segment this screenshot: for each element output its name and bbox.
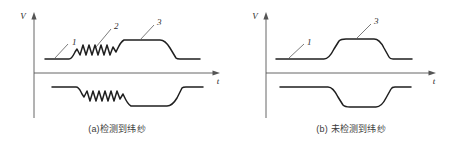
y-axis-label: V <box>252 11 259 21</box>
negative-signal-trace <box>52 87 203 106</box>
positive-signal-trace <box>276 39 412 59</box>
x-axis-arrowhead <box>213 71 221 76</box>
callout-3-label: 3 <box>156 17 162 27</box>
callout-1-label: 1 <box>307 37 312 47</box>
callout-1-label: 1 <box>72 37 77 47</box>
panel-a-caption: (a)检测到纬纱 <box>0 122 234 135</box>
callout-1-leader <box>289 44 304 58</box>
figure-root: V t 1 2 3 (a)检测到纬纱 <box>0 0 468 146</box>
y-axis-label: V <box>20 11 27 21</box>
x-axis-arrowhead <box>429 71 437 76</box>
x-axis-label: t <box>433 76 436 86</box>
callout-3-label: 3 <box>373 16 379 26</box>
callout-1-leader <box>55 44 68 58</box>
callout-2-label: 2 <box>114 21 119 31</box>
x-axis-label: t <box>217 76 220 86</box>
panel-a: V t 1 2 3 (a)检测到纬纱 <box>0 0 234 146</box>
panel-b-plot: V t 1 3 <box>234 0 468 122</box>
panel-b: V t 1 3 (b) 未检测到纬纱 <box>234 0 468 146</box>
callout-3-leader <box>356 24 371 39</box>
y-axis-arrowhead <box>263 12 268 20</box>
panel-a-plot: V t 1 2 3 <box>0 0 234 122</box>
y-axis-arrowhead <box>31 12 36 20</box>
callout-3-leader <box>140 25 154 40</box>
positive-signal-trace <box>45 40 200 59</box>
callout-2-leader <box>96 29 111 47</box>
panel-b-caption: (b) 未检测到纬纱 <box>234 122 468 135</box>
negative-signal-trace <box>280 87 411 107</box>
